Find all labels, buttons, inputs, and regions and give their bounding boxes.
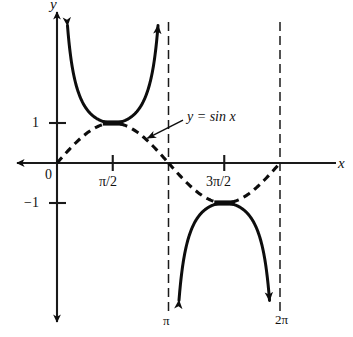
cosecant-branch-second-right-half <box>228 203 270 300</box>
x-axis-label: x <box>338 156 345 171</box>
axis-group <box>17 12 336 322</box>
cosecant-branch-first-left-half <box>67 26 109 123</box>
y-tick-label-minus-1: −1 <box>24 196 39 210</box>
x-tick-label-pi-over-2: π/2 <box>99 175 117 189</box>
y-tick-label-1: 1 <box>32 116 39 130</box>
annotation-leader-group <box>148 120 184 138</box>
graph-canvas <box>0 0 353 337</box>
cosecant-branch-first-right-half <box>116 26 158 123</box>
asymptote-label-2pi: 2π <box>275 313 288 326</box>
y-axis-label: y <box>50 0 57 12</box>
cosecant-sine-figure: y x 0 1 −1 π/2 3π/2 π 2π y = sin x <box>0 0 353 337</box>
sine-label-leader-line <box>148 120 184 138</box>
cosecant-branch-second-left-half <box>179 203 221 300</box>
sine-curve-label: y = sin x <box>187 110 236 124</box>
x-tick-label-3pi-over-2: 3π/2 <box>206 175 231 189</box>
origin-label: 0 <box>45 168 52 182</box>
asymptote-label-pi: π <box>163 314 170 327</box>
